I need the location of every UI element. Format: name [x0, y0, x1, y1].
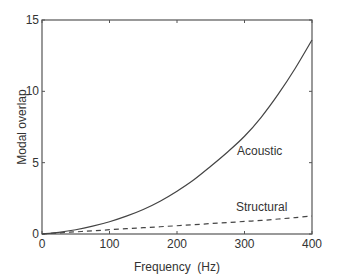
- y-axis-label: Modal overlap: [15, 89, 29, 165]
- acoustic-label: Acoustic: [237, 144, 282, 158]
- tick-labels: 0100200300400051015: [26, 13, 323, 251]
- x-tick-label: 200: [167, 237, 187, 251]
- x-tick-label: 0: [39, 237, 46, 251]
- modal-overlap-chart: 0100200300400051015 Frequency (Hz) Modal…: [0, 0, 339, 276]
- x-tick-label: 100: [99, 237, 119, 251]
- y-tick-label: 0: [32, 227, 39, 241]
- x-axis-label: Frequency (Hz): [134, 260, 220, 274]
- x-tick-label: 400: [302, 237, 322, 251]
- structural-label: Structural: [236, 200, 287, 214]
- y-tick-label: 5: [32, 156, 39, 170]
- x-tick-label: 300: [234, 237, 254, 251]
- y-tick-label: 15: [26, 13, 40, 27]
